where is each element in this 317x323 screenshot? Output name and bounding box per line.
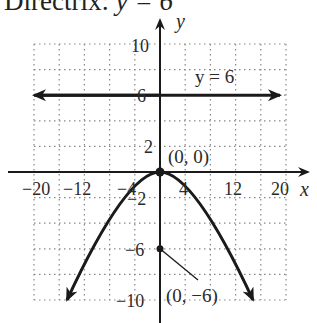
- x-tick: 20: [271, 179, 289, 199]
- x-tick: −12: [63, 179, 91, 199]
- y-tick: 2: [144, 137, 153, 157]
- focus-leader: [160, 249, 198, 280]
- vertex-point: [156, 168, 165, 177]
- focus-label: (0, −6): [166, 285, 218, 307]
- y-tick: −6: [125, 240, 144, 260]
- x-tick: 4: [179, 179, 188, 199]
- y-tick: 6: [137, 86, 146, 106]
- y-tick: −2: [127, 189, 146, 209]
- vertex-label: (0, 0): [168, 146, 209, 168]
- x-tick: 12: [224, 179, 242, 199]
- y-tick: −10: [116, 291, 144, 311]
- directrix-label: y = 6: [195, 66, 234, 87]
- x-axis-label: x: [299, 178, 309, 200]
- y-axis-label: y: [174, 10, 185, 33]
- y-tick: 10: [131, 36, 149, 56]
- parabola-chart: −20 −12 −4 4 12 20 10 6 2 −2 −6 −10 x y …: [0, 0, 317, 323]
- x-tick: −20: [22, 179, 50, 199]
